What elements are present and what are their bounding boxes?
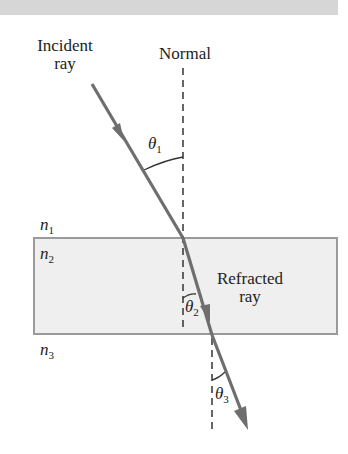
theta3-label: θ3 (215, 385, 229, 408)
incident-ray (92, 84, 183, 238)
emerging-arrow-icon (234, 406, 248, 430)
theta2-label: θ2 (185, 298, 199, 321)
theta3-sub: 3 (223, 393, 229, 405)
theta2-sub: 2 (193, 306, 199, 318)
refracted-label-line2: ray (200, 288, 300, 306)
n2-symbol: n (40, 244, 49, 263)
incident-label-line1: Incident (22, 37, 108, 55)
theta1-label: θ1 (148, 135, 162, 158)
angle-arc-theta3 (212, 372, 225, 380)
n2-sub: 2 (49, 253, 55, 265)
n1-symbol: n (40, 215, 49, 234)
n1-label: n1 (40, 216, 54, 239)
incident-label-line2: ray (22, 55, 108, 73)
n3-sub: 3 (49, 349, 55, 361)
n1-sub: 1 (49, 224, 55, 236)
angle-arc-theta1 (144, 157, 183, 170)
n2-label: n2 (40, 245, 54, 268)
incident-ray-label: Incident ray (22, 37, 108, 73)
refracted-label-line1: Refracted (200, 270, 300, 288)
theta1-sub: 1 (156, 143, 162, 155)
n3-symbol: n (40, 340, 49, 359)
n3-label: n3 (40, 341, 54, 364)
normal-label: Normal (140, 45, 230, 63)
refracted-ray-label: Refracted ray (200, 270, 300, 306)
